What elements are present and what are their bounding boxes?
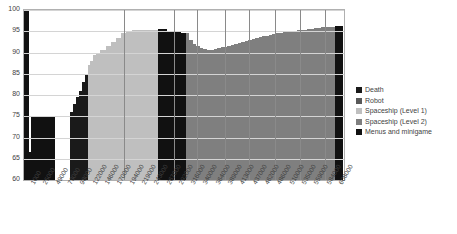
vertical-marker [124,10,125,180]
legend-swatch-icon [356,87,362,93]
y-axis-tick-label: 80 [12,90,20,97]
x-axis: 1000250004900073000980001220001460001700… [23,182,345,234]
gridline [24,116,344,117]
y-axis-tick-label: 60 [12,175,20,182]
legend-swatch-icon [356,108,362,114]
plot-area [23,9,345,181]
chart-container: 1009590858075706560 10002500049000730009… [0,0,457,234]
y-axis-tick-label: 95 [12,26,20,33]
gridline [24,74,344,75]
gridline [24,10,344,11]
gridline [24,138,344,139]
vertical-marker [275,10,276,180]
y-axis-tick-label: 70 [12,133,20,140]
legend-item-label: Spaceship (Level 2) [365,118,427,126]
y-axis: 1009590858075706560 [0,0,23,190]
y-axis-tick-label: 100 [8,5,20,12]
legend-item[interactable]: Spaceship (Level 1) [356,107,456,115]
vertical-marker [325,10,326,180]
chart-segment [341,26,344,180]
gridline [24,53,344,54]
legend-item[interactable]: Robot [356,97,456,105]
y-axis-tick-label: 90 [12,48,20,55]
y-axis-tick-label: 85 [12,69,20,76]
vertical-marker [300,10,301,180]
legend-item[interactable]: Death [356,86,456,94]
legend-item-label: Menus and minigame [365,128,432,136]
vertical-marker [225,10,226,180]
y-axis-tick-label: 65 [12,154,20,161]
y-axis-tick-label: 75 [12,111,20,118]
chart-legend: DeathRobotSpaceship (Level 1)Spaceship (… [356,86,456,139]
legend-swatch-icon [356,119,362,125]
gridline [24,95,344,96]
legend-item-label: Robot [365,97,384,105]
legend-item[interactable]: Menus and minigame [356,128,456,136]
legend-swatch-icon [356,129,362,135]
legend-item-label: Spaceship (Level 1) [365,107,427,115]
legend-item[interactable]: Spaceship (Level 2) [356,118,456,126]
legend-swatch-icon [356,98,362,104]
gridline [24,31,344,32]
vertical-marker [174,10,175,180]
legend-item-label: Death [365,86,384,94]
vertical-marker [249,10,250,180]
gridline [24,159,344,160]
vertical-marker [197,10,198,180]
